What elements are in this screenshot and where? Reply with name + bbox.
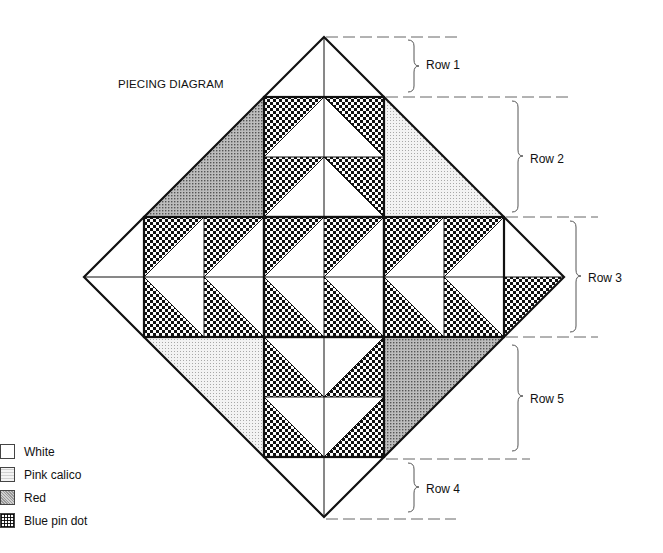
red-swatch-icon <box>0 490 15 505</box>
seam-lines <box>84 37 564 517</box>
row-label-1: Row 1 <box>426 58 460 72</box>
row-label-5: Row 5 <box>530 392 564 406</box>
legend-item-blue-pin-dot: Blue pin dot <box>0 509 87 532</box>
blue-pin-dot-swatch-icon <box>0 513 15 528</box>
legend-label: Red <box>24 491 46 505</box>
pink-calico-swatch-icon <box>0 467 15 482</box>
row-label-2: Row 2 <box>530 152 564 166</box>
row-label-3: Row 3 <box>588 271 622 285</box>
legend-label: Blue pin dot <box>24 514 87 528</box>
diagram-title: PIECING DIAGRAM <box>118 78 224 90</box>
legend-item-red: Red <box>0 486 87 509</box>
row-braces <box>408 40 581 512</box>
piecing-diagram <box>0 0 663 553</box>
legend-item-white: White <box>0 440 87 463</box>
legend-label: Pink calico <box>24 468 81 482</box>
legend-label: White <box>24 445 55 459</box>
fabric-legend: White Pink calico Red Blue pin dot <box>0 440 87 532</box>
legend-item-pink-calico: Pink calico <box>0 463 87 486</box>
row-label-4: Row 4 <box>426 482 460 496</box>
white-swatch-icon <box>0 444 15 459</box>
